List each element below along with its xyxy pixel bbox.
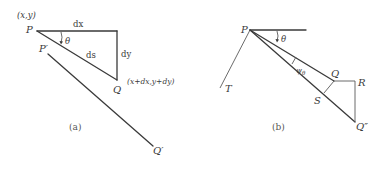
label-q: Q	[113, 84, 121, 95]
label-q-prime: Q′	[153, 145, 164, 156]
segment-pq-double-prime	[250, 30, 355, 122]
theta-arrowhead-icon	[60, 41, 64, 45]
psi-marker	[292, 57, 296, 64]
label-p: P	[25, 24, 33, 35]
segment-qs	[324, 81, 334, 93]
label-psi: ψθ	[296, 66, 306, 76]
label-theta: θ	[65, 36, 70, 46]
label-r: R	[357, 77, 366, 88]
caption-b: (b)	[272, 122, 285, 132]
label-q-b: Q	[331, 68, 339, 79]
tangent-line-pt	[220, 30, 250, 88]
caption-a: (a)	[69, 122, 81, 132]
diagram-svg: (x,y) P dx dy ds θ Q (x+dx,y+dy) P′ Q′ (…	[0, 0, 383, 174]
label-dy: dy	[121, 49, 131, 59]
label-p-coords: (x,y)	[17, 10, 36, 20]
label-q-double-prime: Q″	[356, 121, 368, 132]
label-p-b: P	[240, 24, 248, 35]
p-prime-q-prime-segment	[48, 54, 153, 146]
theta-arrowhead-icon-b	[276, 39, 280, 43]
label-q-coords: (x+dx,y+dy)	[127, 77, 174, 86]
label-p-prime: P′	[38, 43, 49, 54]
segment-pq	[250, 30, 334, 81]
panel-a: (x,y) P dx dy ds θ Q (x+dx,y+dy) P′ Q′ (…	[17, 10, 174, 156]
label-s: S	[314, 95, 321, 106]
label-theta-b: θ	[281, 34, 286, 44]
diagram-canvas: (x,y) P dx dy ds θ Q (x+dx,y+dy) P′ Q′ (…	[0, 0, 383, 174]
panel-b: P θ ψθ T Q R S Q″ (b)	[220, 24, 368, 132]
label-t: T	[225, 83, 233, 94]
label-dx: dx	[73, 19, 83, 29]
label-ds: ds	[86, 50, 96, 60]
